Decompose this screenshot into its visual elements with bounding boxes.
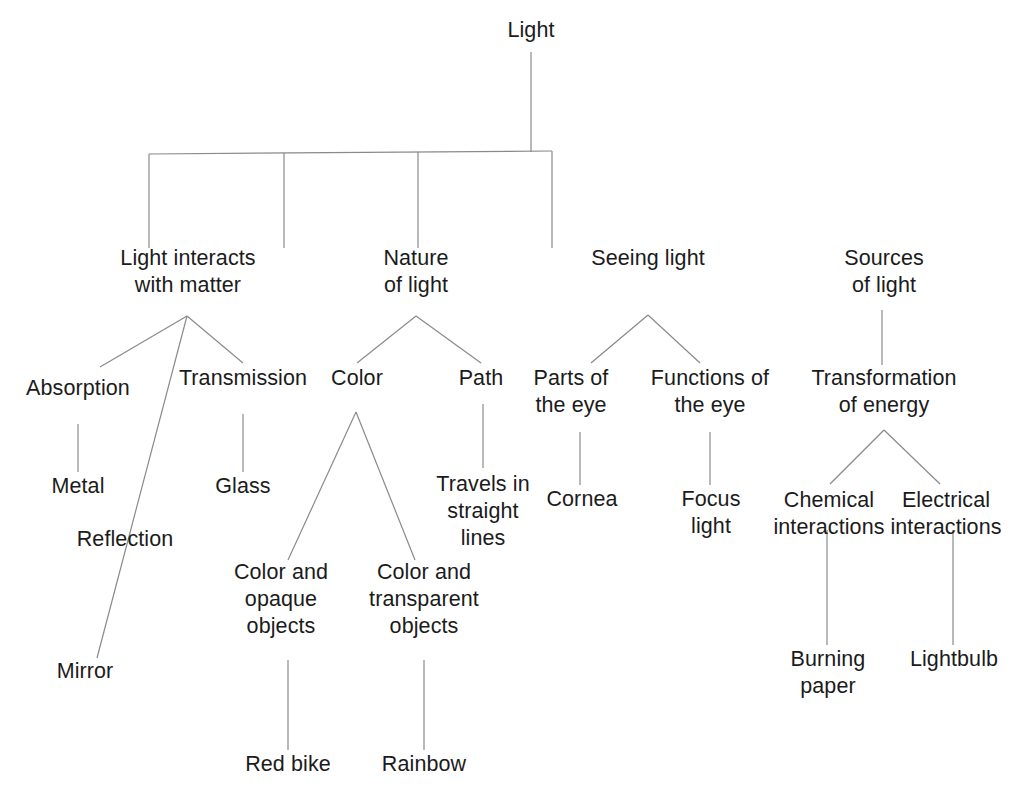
edge-nature-to-color [357, 316, 416, 363]
node-chemical-interactions-line: Chemical [773, 487, 884, 514]
node-metal: Metal [51, 473, 104, 500]
node-nature-line: Nature [383, 245, 448, 272]
node-color-opaque: Color andopaqueobjects [234, 559, 328, 640]
node-focus-light-line: Focus [681, 486, 740, 513]
node-burning-paper-line: Burning [791, 646, 866, 673]
edge-interacts-to-mirror [97, 316, 187, 658]
node-color-transparent-line: objects [369, 613, 479, 640]
node-color-transparent-line: Color and [369, 559, 479, 586]
node-path-line: Path [459, 365, 504, 392]
node-travels-straight-line: straight [436, 498, 529, 525]
node-transformation-line: of energy [811, 392, 956, 419]
node-electrical-interactions: Electricalinteractions [890, 487, 1001, 541]
node-seeing: Seeing light [591, 245, 705, 272]
node-metal-line: Metal [51, 473, 104, 500]
node-lightbulb-line: Lightbulb [910, 646, 998, 673]
node-red-bike: Red bike [245, 751, 331, 778]
node-sources: Sourcesof light [844, 245, 924, 299]
node-functions-of-eye: Functions ofthe eye [651, 365, 769, 419]
edge-interacts-to-transmission [187, 316, 243, 363]
node-parts-of-eye: Parts ofthe eye [534, 365, 609, 419]
node-sources-line: Sources [844, 245, 924, 272]
node-color-line: Color [331, 365, 383, 392]
node-nature-line: of light [383, 272, 448, 299]
node-glass-line: Glass [215, 473, 270, 500]
node-transmission-line: Transmission [179, 365, 307, 392]
node-burning-paper-line: paper [791, 673, 866, 700]
edge-transformation-to-chemical-interactions [830, 430, 884, 484]
edge-seeing-to-functions-of-eye [648, 315, 700, 363]
node-cornea: Cornea [546, 486, 617, 513]
node-path: Path [459, 365, 504, 392]
node-transformation: Transformationof energy [811, 365, 956, 419]
node-light: Light [507, 17, 554, 44]
node-glass: Glass [215, 473, 270, 500]
node-electrical-interactions-line: interactions [890, 514, 1001, 541]
node-color-transparent: Color andtransparentobjects [369, 559, 479, 640]
node-color-opaque-line: objects [234, 613, 328, 640]
edge-seeing-to-parts-of-eye [591, 315, 648, 363]
node-travels-straight-line: Travels in [436, 471, 529, 498]
node-seeing-line: Seeing light [591, 245, 705, 272]
node-reflection-line: Reflection [77, 526, 174, 553]
node-functions-of-eye-line: the eye [651, 392, 769, 419]
node-rainbow-line: Rainbow [382, 751, 466, 778]
node-transformation-line: Transformation [811, 365, 956, 392]
edge-interacts-to-absorption [100, 316, 187, 367]
node-interacts-line: with matter [120, 272, 255, 299]
node-functions-of-eye-line: Functions of [651, 365, 769, 392]
concept-map: LightLight interactswith matterNatureof … [0, 0, 1026, 798]
node-color-opaque-line: opaque [234, 586, 328, 613]
node-light-line: Light [507, 17, 554, 44]
node-chemical-interactions: Chemicalinteractions [773, 487, 884, 541]
node-sources-line: of light [844, 272, 924, 299]
edge-color-to-color-opaque [288, 412, 356, 560]
edge-color-to-color-transparent [356, 412, 415, 560]
node-absorption: Absorption [26, 375, 130, 402]
edge-transformation-to-electrical-interactions [884, 430, 940, 484]
node-travels-straight-line: lines [436, 525, 529, 552]
node-reflection: Reflection [77, 526, 174, 553]
node-focus-light-line: light [681, 513, 740, 540]
node-lightbulb: Lightbulb [910, 646, 998, 673]
node-interacts-line: Light interacts [120, 245, 255, 272]
node-absorption-line: Absorption [26, 375, 130, 402]
node-cornea-line: Cornea [546, 486, 617, 513]
edge-nature-to-path [416, 316, 481, 363]
node-color-transparent-line: transparent [369, 586, 479, 613]
node-transmission: Transmission [179, 365, 307, 392]
node-rainbow: Rainbow [382, 751, 466, 778]
node-mirror-line: Mirror [57, 658, 114, 685]
node-focus-light: Focuslight [681, 486, 740, 540]
edge-bus-to-bus-span [149, 151, 552, 154]
node-parts-of-eye-line: the eye [534, 392, 609, 419]
node-chemical-interactions-line: interactions [773, 514, 884, 541]
node-color: Color [331, 365, 383, 392]
node-nature: Natureof light [383, 245, 448, 299]
node-mirror: Mirror [57, 658, 114, 685]
node-burning-paper: Burningpaper [791, 646, 866, 700]
node-interacts: Light interactswith matter [120, 245, 255, 299]
node-color-opaque-line: Color and [234, 559, 328, 586]
node-electrical-interactions-line: Electrical [890, 487, 1001, 514]
node-red-bike-line: Red bike [245, 751, 331, 778]
node-parts-of-eye-line: Parts of [534, 365, 609, 392]
node-travels-straight: Travels instraightlines [436, 471, 529, 552]
